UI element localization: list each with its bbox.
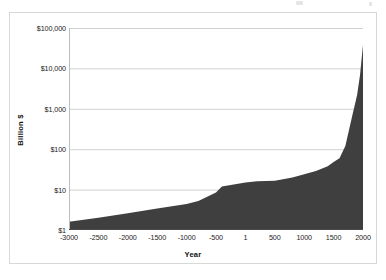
x-axis-tick-label: 1000 — [296, 233, 312, 242]
x-axis-tick-label: -3000 — [60, 233, 78, 242]
x-axis-tick-label: -2500 — [89, 233, 107, 242]
x-axis-tick-label: 500 — [269, 233, 281, 242]
x-axis-tick-label: -2000 — [119, 233, 137, 242]
x-axis-tick-label: 1 — [244, 233, 248, 242]
x-axis-tick-label: -1500 — [148, 233, 166, 242]
x-axis-tick-label: -1000 — [178, 233, 196, 242]
x-axis-tick-labels: -3000-2500-2000-1500-1000-50015001000150… — [0, 0, 386, 280]
x-axis-title: Year — [0, 250, 386, 259]
x-axis-tick-label: 1500 — [326, 233, 342, 242]
y-axis-title: Billion $ — [16, 114, 25, 145]
gdp-log-area-chart: $1$10$100$1,000$10,000$100,000 -3000-250… — [0, 0, 386, 280]
y-axis-title-wrapper: Billion $ — [14, 95, 26, 165]
x-axis-tick-label: -500 — [209, 233, 223, 242]
x-axis-tick-label: 2000 — [355, 233, 371, 242]
